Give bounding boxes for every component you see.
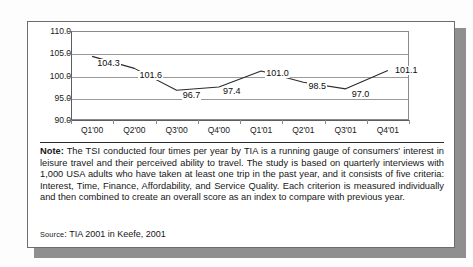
data-series-line (71, 31, 409, 120)
x-axis-tick (71, 120, 72, 124)
data-point-label: 96.7 (182, 91, 202, 100)
data-point-label: 101.6 (138, 71, 163, 80)
x-axis-tick-label: Q1'00 (71, 125, 113, 135)
x-axis-tick-label: Q3'01 (325, 125, 367, 135)
line-chart: 110.0105.0100.095.090.0 Q1'00Q2'00Q3'00Q… (28, 22, 456, 140)
figure-card: 110.0105.0100.095.090.0 Q1'00Q2'00Q3'00Q… (27, 21, 455, 248)
series-polyline (92, 56, 388, 90)
x-axis-tick-label: Q4'00 (198, 125, 240, 135)
x-axis-tick (409, 120, 410, 124)
source-label: Source (40, 230, 64, 239)
data-point-label: 97.0 (351, 90, 371, 99)
x-axis-tick (240, 120, 241, 124)
x-axis-tick (282, 120, 283, 124)
y-axis-tick-label: 100.0 (31, 72, 71, 80)
note-label: Note: (40, 146, 64, 156)
x-axis-tick-label: Q4'01 (367, 125, 409, 135)
y-axis-tick-label: 110.0 (31, 27, 71, 35)
data-point-label: 104.3 (96, 59, 121, 68)
x-axis-tick (198, 120, 199, 124)
data-point-label: 101.0 (265, 69, 290, 78)
y-axis-tick-label: 105.0 (31, 49, 71, 57)
figure-container: 110.0105.0100.095.090.0 Q1'00Q2'00Q3'00Q… (0, 0, 473, 267)
x-axis-tick (367, 120, 368, 124)
x-axis-tick-label: Q3'00 (156, 125, 198, 135)
data-point-label: 101.1 (394, 66, 419, 75)
x-axis-tick (325, 120, 326, 124)
note-paragraph: Note: The TSI conducted four times per y… (40, 146, 444, 204)
x-axis-tick-label: Q2'01 (282, 125, 324, 135)
note-divider (40, 142, 444, 143)
source-text: TIA 2001 in Keefe, 2001 (69, 229, 166, 239)
y-axis-tick-label: 90.0 (31, 116, 71, 124)
x-axis-tick (156, 120, 157, 124)
y-axis-tick-label: 95.0 (31, 94, 71, 102)
x-axis-tick-label: Q1'01 (240, 125, 282, 135)
x-axis-tick (113, 120, 114, 124)
source-line: Source: TIA 2001 in Keefe, 2001 (40, 229, 444, 240)
x-axis-tick-label: Q2'00 (113, 125, 155, 135)
data-point-label: 97.4 (222, 87, 242, 96)
data-point-label: 98.5 (307, 82, 327, 91)
note-body: The TSI conducted four times per year by… (40, 146, 444, 202)
